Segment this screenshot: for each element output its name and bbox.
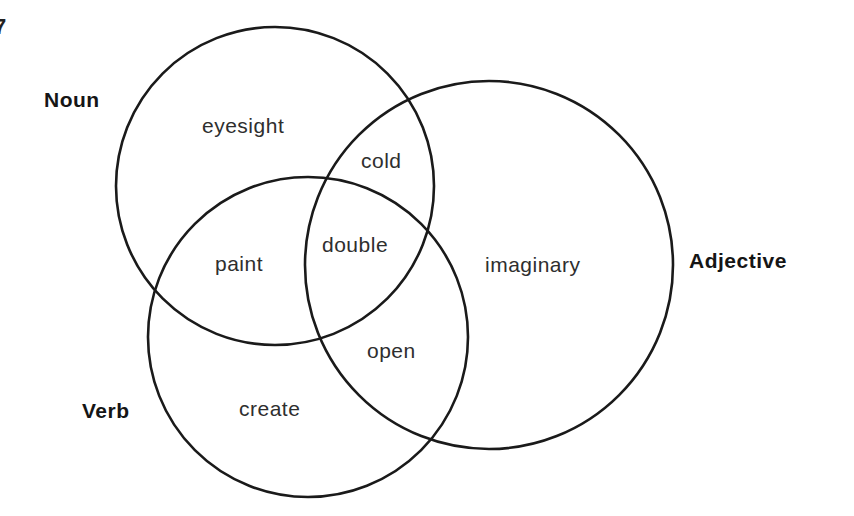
noun-circle bbox=[116, 27, 434, 345]
edge-fragment: 7 bbox=[0, 14, 6, 39]
venn-diagram: 7 Noun Adjective Verb eyesight cold pain… bbox=[0, 0, 854, 516]
region-word-all-three: double bbox=[322, 233, 388, 256]
region-word-noun-adjective: cold bbox=[361, 149, 402, 172]
noun-label: Noun bbox=[44, 88, 100, 111]
verb-label: Verb bbox=[82, 399, 130, 422]
adjective-label: Adjective bbox=[689, 249, 787, 272]
region-word-adjective-verb: open bbox=[367, 339, 416, 362]
region-word-adjective: imaginary bbox=[485, 253, 581, 276]
verb-circle bbox=[148, 177, 468, 497]
region-word-verb: create bbox=[239, 397, 300, 420]
region-word-noun-verb: paint bbox=[215, 252, 263, 275]
region-word-noun: eyesight bbox=[202, 114, 284, 137]
